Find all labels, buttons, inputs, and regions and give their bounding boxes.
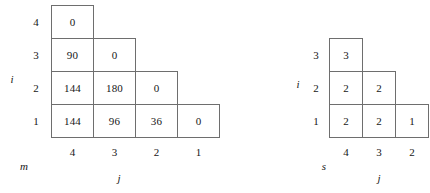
- m-cell-i3-j3: 0: [93, 38, 136, 72]
- m-row-label-4: 4: [26, 17, 46, 28]
- m-cell-i3-j4: 90: [51, 38, 94, 72]
- s-cell-i3-j4: 3: [329, 38, 363, 72]
- s-table-name: s: [314, 161, 334, 172]
- m-cell-i2-j3: 180: [93, 71, 136, 105]
- m-col-label-1: 1: [177, 147, 220, 158]
- s-cell-i1-j3: 2: [362, 104, 396, 138]
- m-cell-i1-j4: 144: [51, 104, 94, 138]
- s-col-label-4: 4: [329, 147, 363, 158]
- m-cell-i2-j4: 144: [51, 71, 94, 105]
- s-cell-i2-j3: 2: [362, 71, 396, 105]
- m-cell-i2-j2: 0: [135, 71, 178, 105]
- m-cell-i1-j3: 96: [93, 104, 136, 138]
- m-table-name: m: [14, 161, 34, 172]
- m-row-label-2: 2: [26, 83, 46, 94]
- s-row-axis-label-i: i: [288, 79, 308, 90]
- s-col-label-2: 2: [395, 147, 429, 158]
- s-col-label-3: 3: [362, 147, 396, 158]
- m-col-axis-label-j: j: [109, 173, 129, 184]
- s-row-label-2: 2: [306, 83, 326, 94]
- s-cell-i1-j4: 2: [329, 104, 363, 138]
- s-cell-i2-j4: 2: [329, 71, 363, 105]
- s-row-label-3: 3: [306, 50, 326, 61]
- m-col-label-4: 4: [51, 147, 94, 158]
- m-col-label-2: 2: [135, 147, 178, 158]
- m-row-axis-label-i: i: [2, 74, 22, 85]
- m-cell-i4-j4: 0: [51, 5, 94, 39]
- m-row-label-1: 1: [26, 116, 46, 127]
- m-cell-i1-j1: 0: [177, 104, 220, 138]
- m-cell-i1-j2: 36: [135, 104, 178, 138]
- s-row-label-1: 1: [306, 116, 326, 127]
- m-col-label-3: 3: [93, 147, 136, 158]
- s-col-axis-label-j: j: [369, 173, 389, 184]
- figure-canvas: 0 90 0 144 180 0 144 96 36 0 4 3 2 1 i 4…: [0, 0, 430, 193]
- s-cell-i1-j2: 1: [395, 104, 429, 138]
- m-row-label-3: 3: [26, 50, 46, 61]
